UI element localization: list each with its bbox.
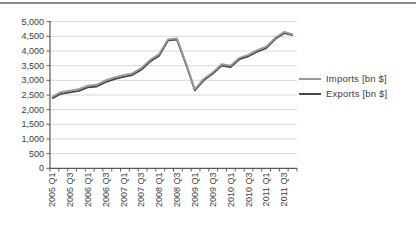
x-axis-tick-label: 2007 Q1: [119, 173, 129, 208]
y-axis-tick-label: 500: [29, 149, 44, 159]
legend-item-exports: Exports [bn $]: [299, 87, 387, 100]
x-axis-tick-label: 2009 Q1: [190, 173, 200, 208]
legend-label-exports: Exports [bn $]: [326, 88, 387, 99]
x-axis-tick-label: 2010 Q1: [226, 173, 236, 208]
y-axis-tick-label: 3,500: [21, 61, 44, 71]
y-axis-tick-label: 5,000: [21, 17, 44, 27]
x-axis-tick-label: 2011 Q3: [279, 173, 289, 207]
y-axis-tick-label: 2,000: [21, 105, 44, 115]
exports-line-swatch: [299, 93, 321, 95]
x-axis-tick-label: 2008 Q1: [154, 173, 164, 208]
y-axis-tick-label: 3,000: [21, 75, 44, 85]
chart-legend: Imports [bn $] Exports [bn $]: [299, 72, 387, 100]
x-axis-tick-label: 2011 Q1: [261, 173, 271, 207]
y-axis-tick-label: 0: [39, 163, 44, 173]
y-axis-tick-label: 1,500: [21, 119, 44, 129]
legend-item-imports: Imports [bn $]: [299, 72, 387, 85]
x-axis-tick-label: 2009 Q3: [208, 173, 218, 208]
y-axis-tick-label: 4,500: [21, 31, 44, 41]
x-axis-tick-label: 2007 Q3: [136, 173, 146, 208]
x-axis-tick-label: 2005 Q1: [47, 173, 57, 208]
imports-line-swatch: [299, 78, 321, 80]
x-axis-tick-label: 2006 Q3: [101, 173, 111, 208]
x-axis-tick-label: 2008 Q3: [172, 173, 182, 208]
x-axis-tick-label: 2005 Q3: [65, 173, 75, 208]
y-axis-tick-label: 1,000: [21, 134, 44, 144]
trade-line-chart: 05001,0001,5002,0002,5003,0003,5004,0004…: [0, 0, 416, 230]
y-axis-tick-label: 2,500: [21, 90, 44, 100]
x-axis-tick-label: 2006 Q1: [83, 173, 93, 208]
x-axis-tick-label: 2010 Q3: [244, 173, 254, 208]
figure-container: 05001,0001,5002,0002,5003,0003,5004,0004…: [0, 0, 416, 230]
legend-label-imports: Imports [bn $]: [326, 73, 387, 84]
y-axis-tick-label: 4,000: [21, 46, 44, 56]
